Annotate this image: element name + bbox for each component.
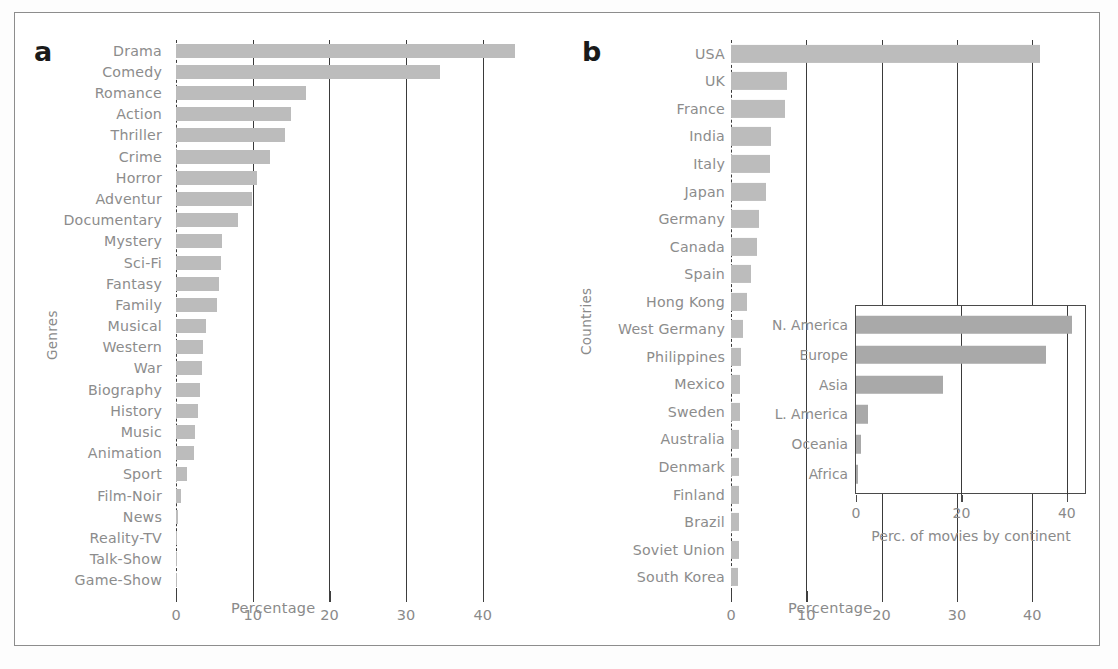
category-label: UK	[705, 73, 725, 89]
bar	[731, 375, 740, 393]
category-label: Film-Noir	[97, 488, 162, 504]
bar	[731, 72, 787, 90]
inset-x-axis-title: Perc. of movies by continent	[871, 528, 1070, 544]
bar	[731, 513, 739, 531]
bar	[176, 65, 440, 79]
category-label: India	[689, 128, 725, 144]
inset-category-label: L. America	[775, 406, 848, 422]
category-label: Mexico	[674, 376, 725, 392]
category-label: Animation	[88, 445, 162, 461]
panel-a-letter: a	[34, 36, 52, 67]
category-label: France	[677, 101, 725, 117]
inset-gridline-40	[1067, 306, 1068, 495]
category-label: Talk-Show	[90, 551, 162, 567]
inset-x-tick-label: 40	[1058, 505, 1076, 521]
inset-category-label: Africa	[809, 466, 848, 482]
gridline-30	[406, 40, 407, 591]
bar	[731, 458, 739, 476]
continent-inset-chart: N. AmericaEuropeAsiaL. AmericaOceaniaAfr…	[855, 305, 1086, 494]
category-label: Australia	[660, 431, 725, 447]
category-label: Sweden	[668, 404, 725, 420]
bar	[176, 44, 515, 58]
panel-b-letter: b	[582, 36, 601, 67]
inset-x-tick	[856, 495, 857, 502]
x-tick	[483, 591, 484, 602]
category-label: USA	[695, 46, 725, 62]
category-label: Music	[121, 424, 162, 440]
category-label: Soviet Union	[633, 542, 725, 558]
x-tick-label: 40	[474, 607, 492, 623]
x-tick-label: 0	[171, 607, 180, 623]
bar	[731, 155, 770, 173]
x-tick-label: 40	[1023, 607, 1041, 623]
inset-bar	[856, 346, 1046, 364]
category-label: Sci-Fi	[124, 255, 162, 271]
x-tick	[957, 591, 958, 602]
category-label: Thriller	[111, 127, 162, 143]
category-label: Drama	[113, 43, 162, 59]
inset-bar	[856, 465, 858, 483]
x-tick	[806, 591, 807, 602]
category-label: Horror	[116, 170, 162, 186]
inset-x-tick-label: 20	[952, 505, 970, 521]
bar	[176, 277, 219, 291]
category-label: Brazil	[684, 514, 725, 530]
category-label: History	[110, 403, 162, 419]
category-label: Western	[102, 339, 162, 355]
category-label: Spain	[684, 266, 725, 282]
inset-bar	[856, 316, 1072, 334]
inset-category-label: N. America	[772, 317, 848, 333]
category-label: Reality-TV	[90, 530, 162, 546]
category-label: Philippines	[646, 349, 725, 365]
category-label: South Korea	[637, 569, 725, 585]
bar	[731, 265, 751, 283]
bar	[731, 182, 766, 200]
bar	[176, 171, 257, 185]
category-label: Comedy	[102, 64, 162, 80]
category-label: Finland	[673, 487, 725, 503]
x-tick-label: 10	[797, 607, 815, 623]
bar	[731, 485, 739, 503]
bar	[176, 213, 238, 227]
bar	[176, 510, 178, 524]
category-label: War	[134, 360, 162, 376]
bar	[176, 361, 202, 375]
inset-plot-area: N. AmericaEuropeAsiaL. AmericaOceaniaAfr…	[856, 306, 1085, 493]
x-tick-label: 30	[948, 607, 966, 623]
bar	[731, 568, 738, 586]
zero-baseline	[731, 40, 732, 591]
bar	[731, 403, 740, 421]
x-tick	[329, 591, 330, 602]
bar	[176, 404, 198, 418]
x-tick	[1032, 591, 1033, 602]
category-label: Hong Kong	[646, 294, 725, 310]
inset-x-tick	[1067, 495, 1068, 502]
x-tick-label: 20	[872, 607, 890, 623]
inset-category-label: Oceania	[792, 436, 848, 452]
category-label: Biography	[88, 382, 162, 398]
category-label: Mystery	[104, 233, 162, 249]
category-label: Denmark	[658, 459, 725, 475]
bar	[731, 210, 759, 228]
bar	[731, 100, 785, 118]
gridline-10	[806, 40, 807, 591]
bar	[176, 298, 217, 312]
bar	[176, 150, 270, 164]
x-tick-label: 10	[243, 607, 261, 623]
bar	[731, 45, 1040, 63]
bar	[176, 383, 200, 397]
bar	[176, 489, 181, 503]
bar	[176, 192, 252, 206]
category-label: Musical	[108, 318, 162, 334]
x-tick	[253, 591, 254, 602]
inset-category-label: Europe	[799, 347, 848, 363]
panel-a: a Genres Percentage DramaComedyRomanceAc…	[0, 0, 560, 669]
inset-bar	[856, 405, 868, 423]
category-label: Italy	[693, 156, 725, 172]
category-label: Crime	[119, 149, 162, 165]
bar	[176, 128, 285, 142]
bar	[731, 541, 739, 559]
x-tick	[406, 591, 407, 602]
bar	[176, 425, 195, 439]
panel-b-y-axis-title: Countries	[578, 288, 594, 355]
